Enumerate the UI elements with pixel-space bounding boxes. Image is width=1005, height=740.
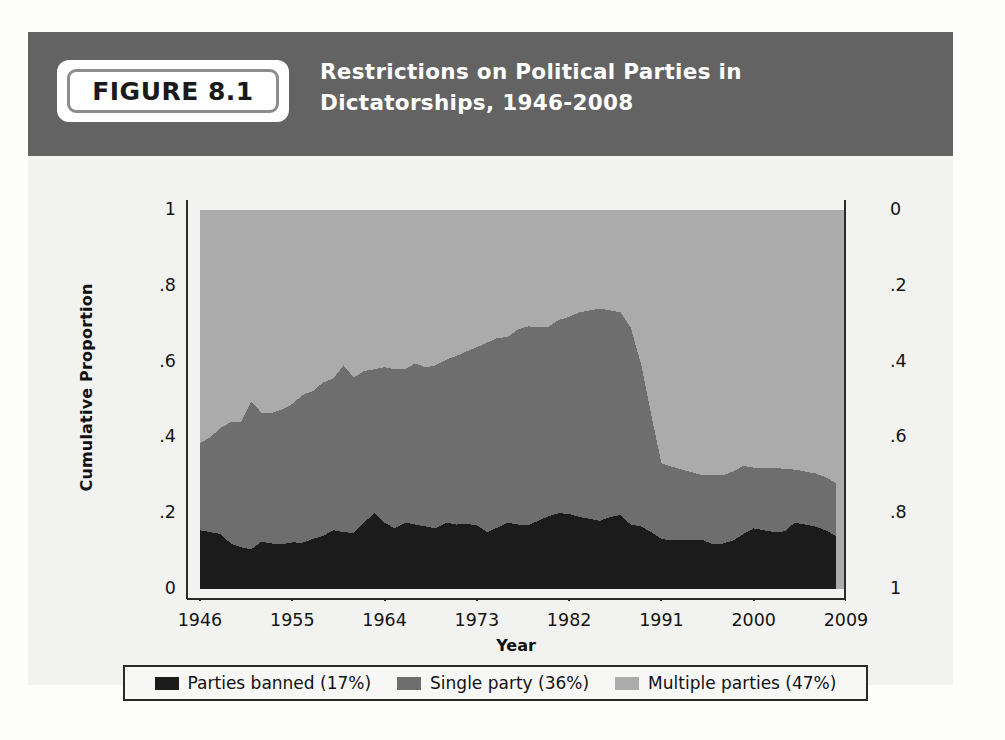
x-tick-label-7: 2009 <box>816 610 876 630</box>
y-tick-label-left-5: 1 <box>165 199 176 219</box>
x-tick-label-6: 2000 <box>724 610 784 630</box>
figure-header-band: FIGURE 8.1 Restrictions on Political Par… <box>28 32 953 156</box>
x-tick-label-4: 1982 <box>539 610 599 630</box>
figure-page: { "figure": { "badge_label": "FIGURE 8.1… <box>0 0 1005 740</box>
legend-item-0: Parties banned (17%) <box>155 673 371 693</box>
x-axis-tick-labels: 19461955196419731982199120002009 <box>186 608 846 638</box>
x-axis-label: Year <box>186 636 846 655</box>
figure-number-label: FIGURE 8.1 <box>92 77 254 106</box>
figure-panel: FIGURE 8.1 Restrictions on Political Par… <box>28 32 953 685</box>
y-tick-label-right-3: .6 <box>890 426 907 446</box>
y-tick-label-right-0: 0 <box>890 199 901 219</box>
figure-title: Restrictions on Political Parties in Dic… <box>320 56 920 118</box>
chart-legend: Parties banned (17%)Single party (36%)Mu… <box>123 665 868 701</box>
y-axis-tick-labels-right: 0.2.4.6.81 <box>890 200 936 601</box>
y-tick-label-right-1: .2 <box>890 275 907 295</box>
y-axis-tick-labels-left: 0.2.4.6.81 <box>130 200 176 601</box>
y-tick-label-left-3: .6 <box>159 351 176 371</box>
plot-area <box>186 200 846 601</box>
y-tick-label-left-1: .2 <box>159 502 176 522</box>
legend-swatch-multiple-parties <box>615 677 639 690</box>
legend-label-2: Multiple parties (47%) <box>648 673 836 693</box>
legend-item-1: Single party (36%) <box>397 673 589 693</box>
y-axis-label-left: Cumulative Proportion <box>77 258 96 518</box>
chart-body: Cumulative Proportion 0.2.4.6.81 0.2.4.6… <box>28 156 953 685</box>
x-tick-label-3: 1973 <box>447 610 507 630</box>
y-tick-label-left-0: 0 <box>165 578 176 598</box>
x-tick-label-0: 1946 <box>170 610 230 630</box>
x-tick-label-5: 1991 <box>631 610 691 630</box>
legend-item-2: Multiple parties (47%) <box>615 673 836 693</box>
y-tick-label-right-2: .4 <box>890 351 907 371</box>
legend-label-0: Parties banned (17%) <box>188 673 371 693</box>
stacked-area-chart <box>186 200 846 601</box>
x-tick-label-1: 1955 <box>262 610 322 630</box>
legend-swatch-parties-banned <box>155 677 179 690</box>
x-tick-label-2: 1964 <box>355 610 415 630</box>
legend-label-1: Single party (36%) <box>430 673 589 693</box>
y-tick-label-left-4: .8 <box>159 275 176 295</box>
y-tick-label-right-4: .8 <box>890 502 907 522</box>
legend-swatch-single-party <box>397 677 421 690</box>
figure-number-badge: FIGURE 8.1 <box>57 60 289 122</box>
y-tick-label-right-5: 1 <box>890 578 901 598</box>
y-tick-label-left-2: .4 <box>159 426 176 446</box>
